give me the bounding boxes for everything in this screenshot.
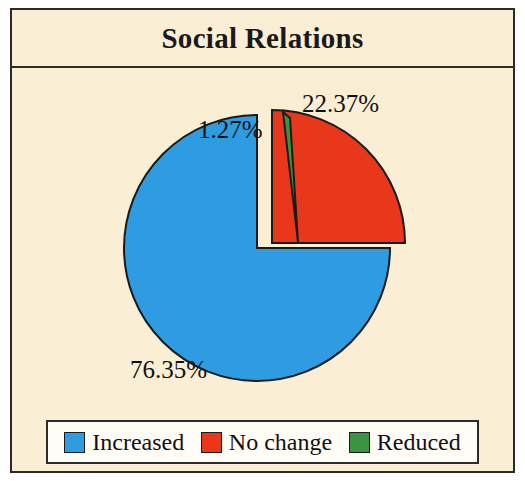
- legend-label-increased: Increased: [92, 429, 184, 456]
- chart-title-bar: Social Relations: [12, 10, 513, 68]
- legend-swatch-no-change: [201, 432, 222, 453]
- legend-item-no-change[interactable]: No change: [201, 429, 332, 456]
- pie-label-reduced: 1.27%: [198, 116, 263, 144]
- chart-legend: Increased No change Reduced: [46, 420, 479, 464]
- chart-panel: Social Relations 76.35% 22.37% 1.27% Inc…: [10, 8, 515, 473]
- page-title: Social Relations: [161, 22, 363, 55]
- pie-chart-svg: [12, 68, 515, 408]
- pie-plot-area: 76.35% 22.37% 1.27%: [12, 68, 513, 408]
- legend-item-increased[interactable]: Increased: [64, 429, 184, 456]
- pie-label-increased: 76.35%: [130, 356, 207, 384]
- pie-label-no-change: 22.37%: [302, 90, 379, 118]
- legend-label-no-change: No change: [229, 429, 332, 456]
- legend-swatch-increased: [64, 432, 85, 453]
- legend-label-reduced: Reduced: [377, 429, 461, 456]
- legend-item-reduced[interactable]: Reduced: [349, 429, 461, 456]
- legend-swatch-reduced: [349, 432, 370, 453]
